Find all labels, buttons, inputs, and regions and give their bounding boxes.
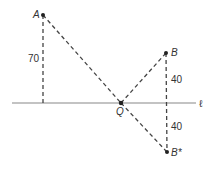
a-distance-label: 70 [28, 53, 40, 64]
segment-qbstar [121, 103, 167, 152]
reflection-diagram: ℓ 70 40 40 A B Q B* [0, 0, 216, 170]
b-distance-label: 40 [171, 74, 183, 85]
point-q-label: Q [116, 106, 124, 117]
point-b [164, 51, 168, 55]
point-bstar [165, 150, 169, 154]
point-a-label: A [32, 9, 40, 20]
point-q [119, 101, 123, 105]
b-bstar-perpendicular [166, 53, 167, 152]
bstar-distance-label: 40 [171, 121, 183, 132]
point-a [41, 13, 45, 17]
segment-qb [121, 53, 166, 103]
point-bstar-label: B* [171, 147, 183, 158]
point-b-label: B [171, 47, 178, 58]
segment-aq [43, 15, 121, 103]
line-l-label: ℓ [199, 98, 203, 109]
